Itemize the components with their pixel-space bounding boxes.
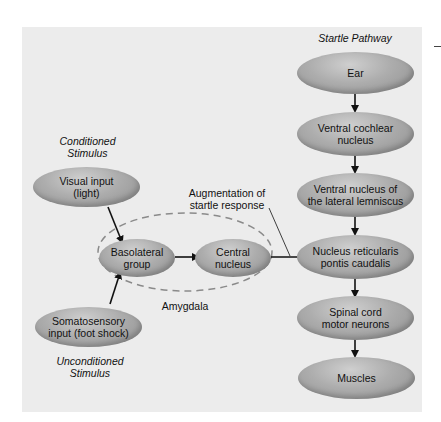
node-muscles: Muscles bbox=[298, 357, 415, 399]
startle-pathway-title: Startle Pathway bbox=[300, 32, 410, 44]
augmentation-line1: Augmentation of bbox=[182, 187, 272, 199]
node-spinal-line2: motor neurons bbox=[322, 318, 390, 330]
arrow-somatosensory-to-basolateral bbox=[110, 273, 120, 304]
node-reticularis-line1: Nucleus reticularis bbox=[313, 245, 399, 257]
augmentation-line2: startle response bbox=[182, 199, 272, 211]
node-spinal-line1: Spinal cord bbox=[322, 306, 390, 318]
node-somatosensory-line1: Somatosensory bbox=[48, 315, 129, 327]
node-basolateral-line2: group bbox=[111, 258, 164, 270]
node-visual-input: Visual input (light) bbox=[33, 167, 140, 207]
node-ventral-cochlear-line1: Ventral cochlear bbox=[318, 122, 393, 134]
node-reticularis-line2: pontis caudalis bbox=[313, 257, 399, 269]
unconditioned-stimulus-label: Unconditioned Stimulus bbox=[40, 355, 140, 379]
node-nucleus-reticularis-pontis-caudalis: Nucleus reticularis pontis caudalis bbox=[297, 235, 414, 279]
conditioned-line2: Stimulus bbox=[40, 147, 135, 159]
node-ventral-nucleus-lateral-lemniscus: Ventral nucleus of the lateral lemniscus bbox=[297, 173, 414, 217]
node-somatosensory-input: Somatosensory input (foot shock) bbox=[35, 307, 142, 347]
node-ventral-cochlear-nucleus: Ventral cochlear nucleus bbox=[297, 112, 414, 156]
augmentation-leader-line bbox=[269, 208, 290, 256]
node-central-nucleus: Central nucleus bbox=[195, 239, 271, 277]
node-ear: Ear bbox=[297, 52, 414, 94]
node-lemniscus-line2: the lateral lemniscus bbox=[308, 195, 404, 207]
augmentation-label: Augmentation of startle response bbox=[182, 187, 272, 211]
node-basolateral-group: Basolateral group bbox=[99, 239, 175, 277]
arrow-visual-to-basolateral bbox=[108, 207, 122, 242]
amygdala-label: Amygdala bbox=[150, 300, 220, 312]
unconditioned-line1: Unconditioned bbox=[40, 355, 140, 367]
unconditioned-line2: Stimulus bbox=[40, 367, 140, 379]
node-central-line2: nucleus bbox=[215, 258, 251, 270]
node-ventral-cochlear-line2: nucleus bbox=[318, 134, 393, 146]
node-lemniscus-line1: Ventral nucleus of bbox=[308, 183, 404, 195]
conditioned-line1: Conditioned bbox=[40, 135, 135, 147]
node-somatosensory-line2: input (foot shock) bbox=[48, 327, 129, 339]
node-spinal-cord-motor-neurons: Spinal cord motor neurons bbox=[297, 296, 414, 340]
conditioned-stimulus-label: Conditioned Stimulus bbox=[40, 135, 135, 159]
node-central-line1: Central bbox=[215, 246, 251, 258]
node-visual-line2: (light) bbox=[59, 187, 113, 199]
node-muscles-label: Muscles bbox=[337, 372, 376, 384]
node-basolateral-line1: Basolateral bbox=[111, 246, 164, 258]
node-visual-line1: Visual input bbox=[59, 175, 113, 187]
node-ear-label: Ear bbox=[347, 67, 363, 79]
